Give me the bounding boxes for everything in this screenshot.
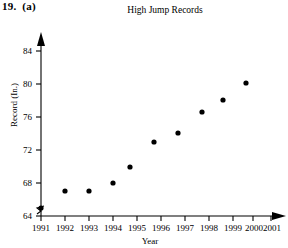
data-point-group (38, 80, 248, 210)
y-axis-ticks (36, 51, 41, 216)
y-axis-title: Record (In.) (9, 65, 19, 145)
xtick-label-1991: 1991 (28, 224, 54, 233)
data-point (38, 205, 43, 210)
ytick-label-84: 84 (10, 47, 32, 56)
data-point (62, 188, 67, 193)
chart-canvas (0, 0, 288, 248)
data-point (243, 80, 248, 85)
data-point (175, 130, 180, 135)
x-axis-title: Year (120, 236, 180, 246)
data-point (220, 97, 225, 102)
data-point (86, 188, 91, 193)
xtick-label-1997: 1997 (172, 224, 198, 233)
data-point (127, 164, 132, 169)
xtick-label-1995: 1995 (124, 224, 150, 233)
xtick-label-2001: 2001 (259, 224, 285, 233)
xtick-label-1998: 1998 (196, 224, 222, 233)
xtick-label-1996: 1996 (148, 224, 174, 233)
data-point (110, 180, 115, 185)
x-axis-ticks (41, 216, 271, 221)
x-axis-arrow-icon (272, 212, 286, 220)
scatter-plot: 64 68 72 76 80 84 1991 1992 1993 1994 19… (0, 0, 288, 248)
ytick-label-72: 72 (10, 146, 32, 155)
ytick-label-64: 64 (10, 212, 32, 221)
y-axis-arrow-icon (37, 32, 45, 46)
data-point (151, 139, 156, 144)
data-point (199, 109, 204, 114)
xtick-label-1993: 1993 (76, 224, 102, 233)
xtick-label-1992: 1992 (52, 224, 78, 233)
xtick-label-1994: 1994 (100, 224, 126, 233)
ytick-label-68: 68 (10, 179, 32, 188)
